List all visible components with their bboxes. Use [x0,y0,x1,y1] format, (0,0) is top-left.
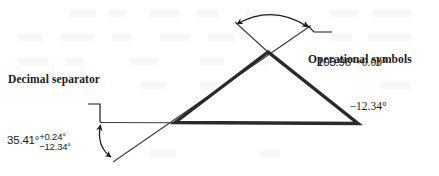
lower-leader-line [88,104,100,122]
lower-tolerance-stack: +0.24° −12.34° [39,130,71,152]
upper-nominal-row: 103.96° +0.00° [317,56,387,68]
angle-dimension-lower: 35.41° +0.24° −12.34° [7,98,71,176]
upper-nominal-value: 103.96° [317,56,355,68]
callout-decimal-separator: Decimal separator [8,74,100,86]
angle-dimension-upper: 103.96° +0.00° −12.34° [317,24,387,145]
upper-tolerance-plus: +0.00° [355,56,386,68]
lower-nominal-row: 35.41° +0.24° −12.34° [7,130,71,152]
lower-nominal-value: 35.41° [7,130,39,150]
upper-tolerance-minus: −12.34° [317,100,387,113]
lower-angle-arc [99,125,111,157]
lower-tolerance-minus: −12.34° [39,142,71,152]
upper-angle-left-ray [235,22,268,52]
technical-drawing-figure: Decimal separator Operational symbols 10… [0,0,439,176]
